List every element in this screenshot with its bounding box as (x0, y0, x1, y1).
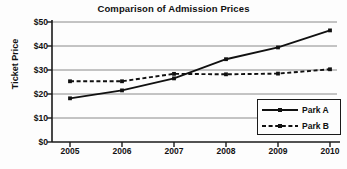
series-line-park-b (70, 69, 330, 81)
legend-label-park-b: Park B (302, 119, 329, 133)
data-point (224, 72, 228, 76)
series-markers-park-a (68, 29, 332, 101)
x-tick-label: 2006 (102, 146, 142, 156)
series-line-park-a (70, 30, 330, 98)
data-point (276, 46, 280, 50)
chart-container: Comparison of Admission Prices Ticket Pr… (0, 0, 347, 169)
data-point (68, 96, 72, 100)
legend-line-solid-icon (258, 103, 302, 117)
data-point (328, 67, 332, 71)
data-point (224, 57, 228, 61)
data-point (68, 79, 72, 83)
data-point (276, 72, 280, 76)
y-axis-line (47, 20, 52, 142)
x-tick-label: 2010 (310, 146, 347, 156)
legend-label-park-a: Park A (302, 103, 329, 117)
data-point (328, 29, 332, 33)
x-tick-label: 2009 (258, 146, 298, 156)
legend-item-park-b: Park B (258, 118, 342, 134)
data-point (120, 79, 124, 83)
plot-area (0, 0, 347, 169)
data-point (172, 72, 176, 76)
data-point (172, 77, 176, 81)
chart-legend: Park A Park B (257, 99, 341, 135)
legend-line-dashed-icon (258, 119, 302, 133)
x-axis-tick-labels: 2005 2006 2007 2008 2009 2010 (0, 146, 347, 164)
legend-item-park-a: Park A (258, 102, 342, 118)
x-tick-label: 2008 (206, 146, 246, 156)
x-tick-label: 2007 (154, 146, 194, 156)
data-point (120, 89, 124, 93)
x-tick-label: 2005 (50, 146, 90, 156)
